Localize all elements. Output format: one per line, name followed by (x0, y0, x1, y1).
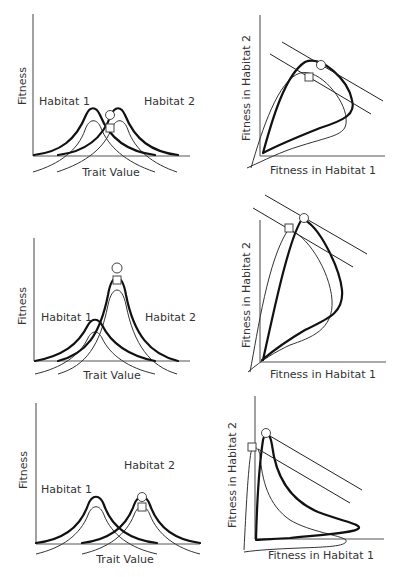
trait-panel-1: Fitness Trait Value Habitat 1 Habitat 2 (16, 14, 195, 179)
habitat2-label: Habitat 2 (144, 95, 195, 108)
optimum-circle-marker (262, 429, 271, 438)
fitness-panel-3: Fitness in Habitat 2 Fitness in Habitat … (226, 396, 384, 562)
x-axis-label: Fitness in Habitat 1 (268, 549, 374, 562)
tangent-line-thick (282, 42, 383, 101)
figure: Fitness Trait Value Habitat 1 Habitat 2 … (0, 0, 400, 577)
x-axis-label: Trait Value (95, 553, 154, 566)
trait-panel-3: Fitness Trait Value Habitat 1 Habitat 2 (17, 403, 200, 566)
y-axis-label: Fitness (16, 287, 29, 325)
x-axis-label: Fitness in Habitat 1 (270, 164, 376, 177)
x-axis-label: Trait Value (81, 166, 140, 179)
optimum-square-marker (305, 73, 313, 81)
y-axis-label: Fitness in Habitat 2 (240, 242, 253, 348)
optimum-circle-marker (112, 263, 122, 273)
habitat1-label: Habitat 1 (39, 95, 90, 108)
thin-fitness-curve-habitat2 (57, 121, 177, 172)
optimum-square-marker (106, 124, 114, 132)
thick-fitness-set-curve (256, 435, 359, 540)
thin-fitness-curve-habitat2 (82, 507, 200, 554)
optimum-circle-marker (300, 214, 309, 223)
optimum-square-marker (113, 276, 121, 284)
optimum-circle-marker (138, 493, 147, 502)
habitat2-label: Habitat 2 (145, 311, 196, 324)
y-axis-label: Fitness (16, 67, 29, 105)
thick-fitness-curve-habitat1 (34, 108, 155, 155)
trait-panel-2: Fitness Trait Value Habitat 1 Habitat 2 (16, 238, 196, 382)
fitness-panel-1: Fitness in Habitat 2 Fitness in Habitat … (240, 15, 385, 177)
thin-fitness-set-curve (247, 72, 346, 168)
y-axis-label: Fitness in Habitat 2 (226, 422, 239, 528)
optimum-square-marker (138, 503, 146, 511)
tangent-line-thin (258, 449, 350, 503)
thin-fitness-curve-habitat1 (36, 507, 157, 554)
habitat2-label: Habitat 2 (124, 459, 175, 472)
optimum-circle-marker (317, 61, 326, 70)
y-axis-label: Fitness (17, 451, 30, 489)
y-axis-label: Fitness in Habitat 2 (240, 35, 253, 141)
optimum-circle-marker (106, 111, 115, 120)
habitat1-label: Habitat 1 (41, 311, 92, 324)
x-axis-label: Trait Value (82, 369, 141, 382)
habitat1-label: Habitat 1 (41, 483, 92, 496)
optimum-square-marker (248, 443, 256, 451)
optimum-square-marker (285, 224, 293, 232)
fitness-panel-2: Fitness in Habitat 2 Fitness in Habitat … (240, 195, 386, 381)
x-axis-label: Fitness in Habitat 1 (270, 368, 376, 381)
